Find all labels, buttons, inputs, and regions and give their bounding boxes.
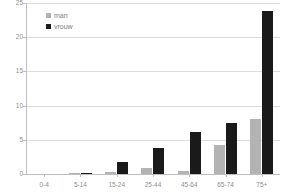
bar-vrouw-25-44 <box>153 148 164 174</box>
legend-label-man: man <box>54 12 68 19</box>
bar-group <box>99 3 135 174</box>
bar-man-45-64 <box>178 171 189 174</box>
bar-man-25-44 <box>141 168 152 174</box>
x-tick-mark <box>80 174 81 177</box>
bar-man-75+ <box>250 119 261 174</box>
legend-swatch-vrouw-icon <box>46 24 51 29</box>
x-axis-label-0-4: 0-4 <box>24 182 64 189</box>
x-tick-mark <box>153 174 154 177</box>
x-axis-label-75+: 75+ <box>242 182 282 189</box>
x-tick-mark <box>189 174 190 177</box>
y-tick-label-10: 10 <box>2 103 23 110</box>
bar-man-65-74 <box>214 145 225 174</box>
y-tick-label-0: 0 <box>2 171 23 178</box>
bar-man-5-14 <box>69 173 80 174</box>
chart-legend: man vrouw <box>46 12 73 34</box>
bar-man-15-24 <box>105 172 116 174</box>
x-axis-label-15-24: 15-24 <box>97 182 137 189</box>
x-axis-label-25-44: 25-44 <box>133 182 173 189</box>
y-tick-label-20: 20 <box>2 34 23 41</box>
x-tick-mark <box>262 174 263 177</box>
x-tick-mark <box>117 174 118 177</box>
x-tick-mark <box>44 174 45 177</box>
x-axis-label-5-14: 5-14 <box>60 182 100 189</box>
y-tick-label-15: 15 <box>2 68 23 75</box>
bar-group <box>207 3 243 174</box>
bar-vrouw-65-74 <box>226 123 237 174</box>
bar-group <box>244 3 280 174</box>
bar-group <box>135 3 171 174</box>
y-tick-label-5: 5 <box>2 137 23 144</box>
bar-vrouw-5-14 <box>81 173 92 174</box>
legend-label-vrouw: vrouw <box>54 23 73 30</box>
x-axis-label-65-74: 65-74 <box>206 182 246 189</box>
bar-chart: 25 20 15 10 5 0 0-45-1415-2425-4445-6465… <box>0 0 282 195</box>
x-axis-label-45-64: 45-64 <box>169 182 209 189</box>
legend-swatch-man-icon <box>46 13 51 18</box>
legend-item-vrouw: vrouw <box>46 23 73 30</box>
y-tick-label-25: 25 <box>2 0 23 7</box>
x-tick-mark <box>226 174 227 177</box>
bar-vrouw-75+ <box>262 11 273 174</box>
bar-group <box>171 3 207 174</box>
bar-vrouw-15-24 <box>117 162 128 174</box>
legend-item-man: man <box>46 12 73 19</box>
bar-vrouw-45-64 <box>190 132 201 174</box>
